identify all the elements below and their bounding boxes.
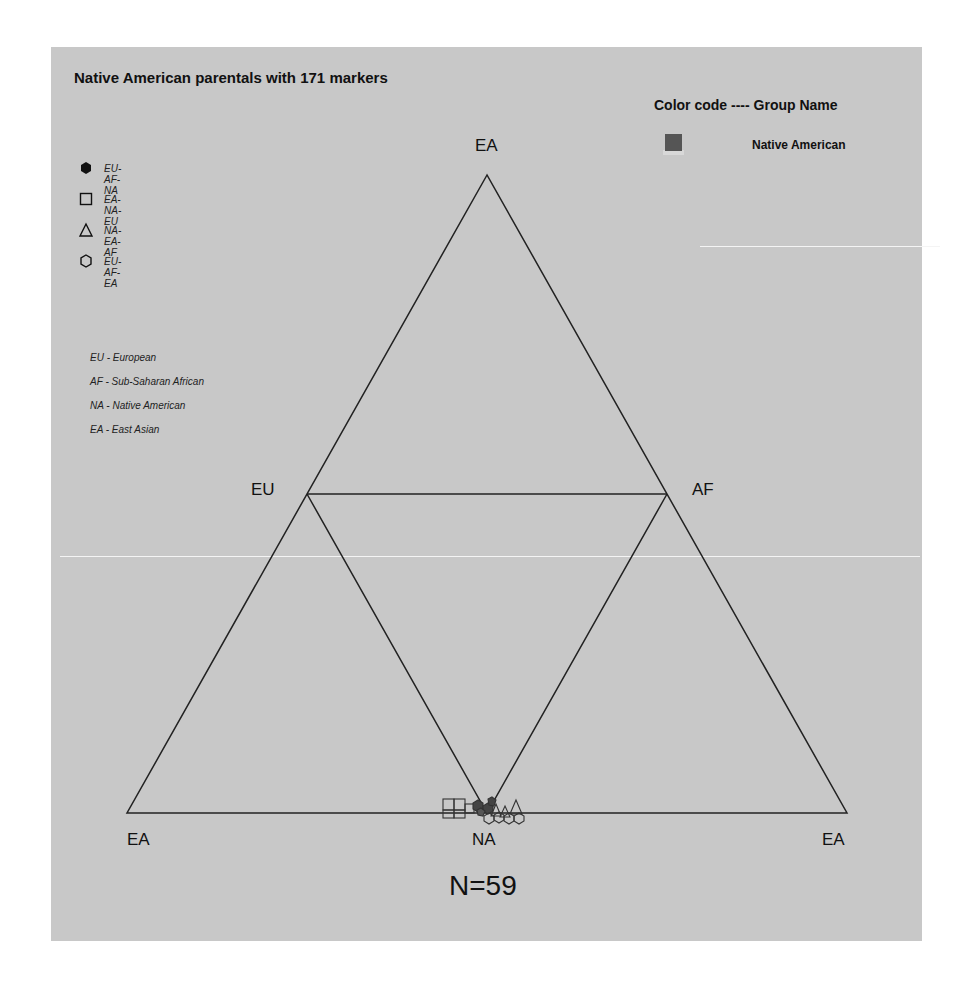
vertex-label-mid-left: EU xyxy=(251,480,275,500)
point-triangle xyxy=(510,800,522,814)
vertex-label-bottom-right: EA xyxy=(822,830,845,850)
vertex-label-bottom-left: EA xyxy=(127,830,150,850)
triangle-lines xyxy=(127,175,847,813)
inner-v-lines xyxy=(307,494,667,813)
vertex-label-top: EA xyxy=(475,136,498,156)
vertex-label-mid-right: AF xyxy=(692,480,714,500)
point-hexagon xyxy=(514,813,524,824)
point-square xyxy=(443,810,454,818)
point-hexagon xyxy=(484,813,494,824)
point-square xyxy=(454,799,465,810)
point-square xyxy=(443,799,454,810)
point-square xyxy=(454,810,465,818)
data-points xyxy=(443,797,524,824)
vertex-label-bottom-center: NA xyxy=(472,830,496,850)
sample-size-label: N=59 xyxy=(449,870,517,902)
